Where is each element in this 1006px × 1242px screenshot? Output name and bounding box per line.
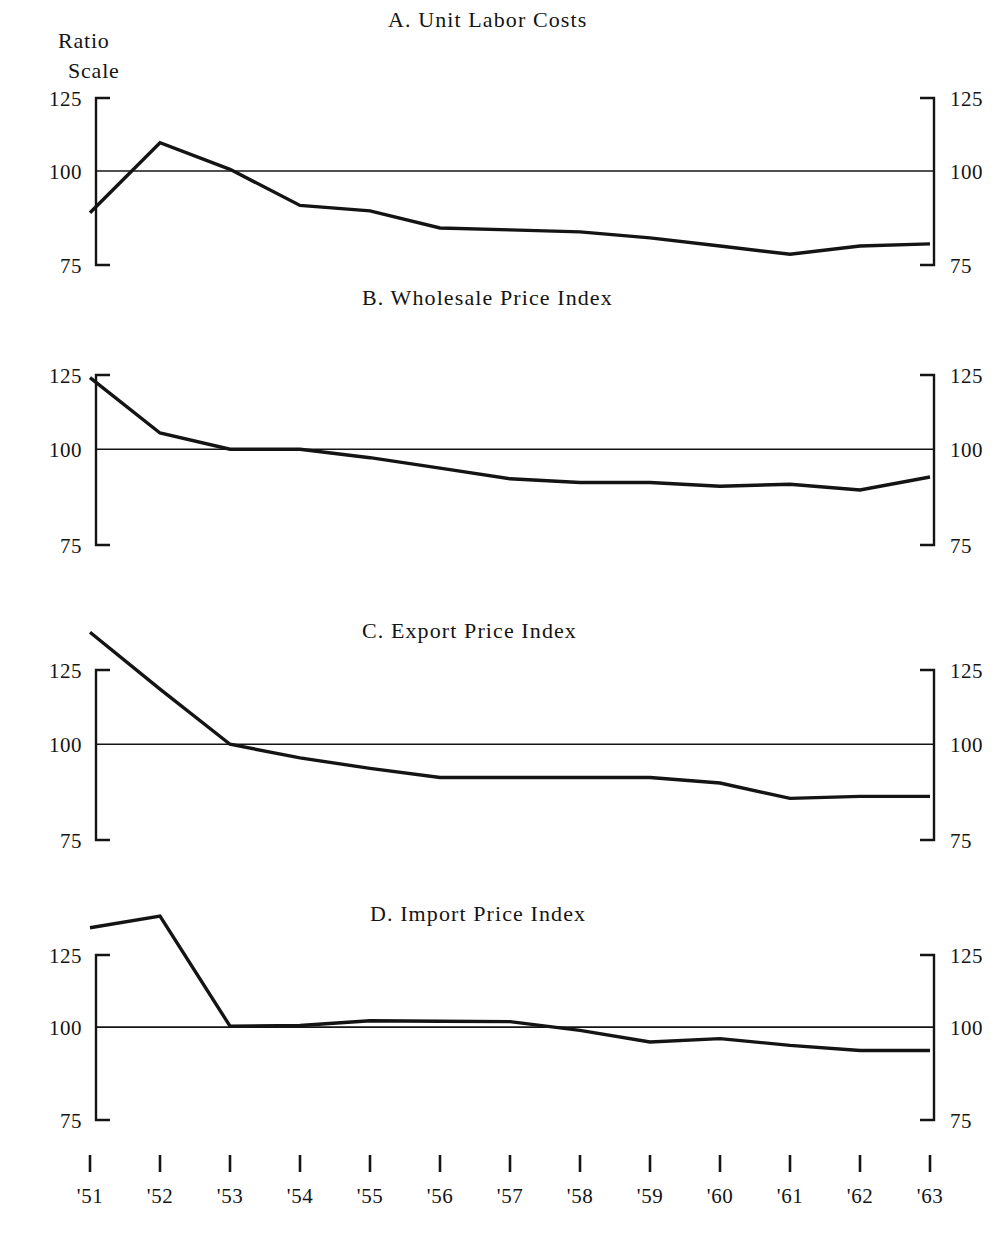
- y-tick-label-left-d-100: 100: [49, 1016, 82, 1040]
- left-axis-c: [96, 670, 110, 840]
- ratio-scale-caption-line2: Scale: [68, 58, 120, 83]
- y-tick-label-left-d-75: 75: [60, 1109, 82, 1133]
- left-axis-d: [96, 955, 110, 1120]
- right-axis-a: [920, 98, 934, 265]
- four-panel-line-chart: Ratio Scale A. Unit Labor Costs B. Whole…: [0, 0, 1006, 1242]
- y-tick-label-right-c-100: 100: [950, 733, 983, 757]
- y-tick-label-right-a-75: 75: [950, 254, 972, 278]
- panel-c: 1251251001007575: [49, 632, 983, 853]
- panel-a: 1251251001007575: [49, 87, 983, 278]
- y-tick-label-left-b-75: 75: [60, 534, 82, 558]
- y-tick-label-right-d-100: 100: [950, 1016, 983, 1040]
- panel-b: 1251251001007575: [49, 364, 983, 558]
- x-tick-label-57: '57: [497, 1184, 523, 1208]
- y-tick-label-left-a-100: 100: [49, 160, 82, 184]
- x-tick-label-60: '60: [707, 1184, 733, 1208]
- x-tick-label-52: '52: [147, 1184, 173, 1208]
- right-axis-d: [920, 955, 934, 1120]
- x-tick-label-62: '62: [847, 1184, 873, 1208]
- y-tick-label-left-a-125: 125: [49, 87, 82, 111]
- panel-group: 1251251001007575125125100100757512512510…: [49, 87, 983, 1133]
- y-tick-label-right-d-75: 75: [950, 1109, 972, 1133]
- x-tick-label-63: '63: [917, 1184, 943, 1208]
- y-tick-label-right-d-125: 125: [950, 944, 983, 968]
- x-axis: '51'52'53'54'55'56'57'58'59'60'61'62'63: [77, 1155, 943, 1208]
- y-tick-label-right-a-100: 100: [950, 160, 983, 184]
- y-tick-label-left-c-75: 75: [60, 829, 82, 853]
- series-line-d: [90, 916, 930, 1050]
- x-tick-label-51: '51: [77, 1184, 103, 1208]
- x-tick-label-53: '53: [217, 1184, 243, 1208]
- series-line-c: [90, 632, 930, 798]
- series-line-a: [90, 143, 930, 255]
- panel-title-d: D. Import Price Index: [370, 901, 586, 926]
- x-tick-label-54: '54: [287, 1184, 313, 1208]
- y-tick-label-left-c-100: 100: [49, 733, 82, 757]
- left-axis-b: [96, 375, 110, 545]
- y-tick-label-right-b-100: 100: [950, 438, 983, 462]
- ratio-scale-caption-line1: Ratio: [58, 28, 110, 53]
- y-tick-label-right-c-75: 75: [950, 829, 972, 853]
- left-axis-a: [96, 98, 110, 265]
- y-tick-label-right-a-125: 125: [950, 87, 983, 111]
- series-line-b: [90, 378, 930, 490]
- y-tick-label-right-b-75: 75: [950, 534, 972, 558]
- panel-title-a: A. Unit Labor Costs: [388, 7, 587, 32]
- right-axis-c: [920, 670, 934, 840]
- chart-figure: Ratio Scale A. Unit Labor Costs B. Whole…: [0, 0, 1006, 1242]
- x-tick-label-55: '55: [357, 1184, 383, 1208]
- y-tick-label-right-b-125: 125: [950, 364, 983, 388]
- panel-d: 1251251001007575: [49, 916, 983, 1133]
- y-tick-label-left-b-100: 100: [49, 438, 82, 462]
- x-tick-label-59: '59: [637, 1184, 663, 1208]
- y-tick-label-left-b-125: 125: [49, 364, 82, 388]
- panel-title-b: B. Wholesale Price Index: [362, 285, 613, 310]
- x-tick-label-58: '58: [567, 1184, 593, 1208]
- y-tick-label-left-a-75: 75: [60, 254, 82, 278]
- x-tick-label-56: '56: [427, 1184, 453, 1208]
- y-tick-label-left-c-125: 125: [49, 659, 82, 683]
- y-tick-label-left-d-125: 125: [49, 944, 82, 968]
- panel-title-c: C. Export Price Index: [362, 618, 577, 643]
- y-tick-label-right-c-125: 125: [950, 659, 983, 683]
- right-axis-b: [920, 375, 934, 545]
- x-tick-label-61: '61: [777, 1184, 803, 1208]
